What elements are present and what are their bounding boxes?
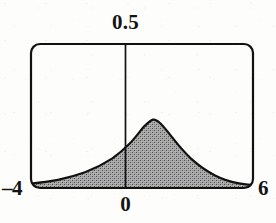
x-axis-max-label: 6 bbox=[258, 178, 269, 199]
y-axis-max-label: 0.5 bbox=[0, 12, 251, 33]
density-plot-figure: 0.5 0 –4 6 bbox=[0, 0, 276, 223]
x-axis-min-label: –4 bbox=[2, 178, 22, 199]
x-axis-zero-label: 0 bbox=[0, 194, 251, 215]
